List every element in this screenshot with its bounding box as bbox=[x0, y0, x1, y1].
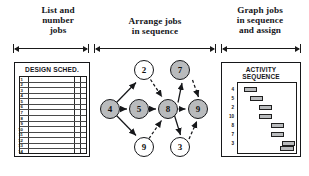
activity-bar[interactable] bbox=[250, 96, 263, 101]
stage-title-graph: Graph jobsin sequenceand assign bbox=[218, 5, 302, 36]
span-arrowhead-left bbox=[222, 46, 227, 52]
span-arrowhead-left bbox=[14, 46, 19, 52]
span-arrow-list bbox=[13, 44, 89, 53]
design-schedule-panel: DESIGN SCHED. 1234567891011121314 bbox=[14, 62, 90, 157]
span-bar bbox=[15, 48, 87, 49]
design-schedule-row: 14 bbox=[20, 149, 86, 155]
network-node-n9b[interactable]: 9 bbox=[134, 137, 154, 157]
activity-row-label: 3 bbox=[223, 141, 234, 146]
design-schedule-grid: 1234567891011121314 bbox=[19, 76, 87, 154]
activity-bar[interactable] bbox=[271, 123, 284, 128]
network-node-n5[interactable]: 5 bbox=[129, 99, 149, 119]
precedence-network: 45892793 bbox=[94, 58, 216, 160]
activity-row-label: 8 bbox=[223, 123, 234, 128]
activity-row-label: 5 bbox=[223, 96, 234, 101]
network-node-label: 3 bbox=[178, 142, 183, 152]
activity-bar[interactable] bbox=[244, 87, 257, 92]
span-arrow-graph bbox=[221, 44, 301, 53]
activity-row-label: 4 bbox=[223, 87, 234, 92]
activity-row-label: 7 bbox=[223, 132, 234, 137]
network-node-n9r[interactable]: 9 bbox=[188, 99, 208, 119]
network-node-label: 5 bbox=[137, 104, 142, 114]
network-node-n4[interactable]: 4 bbox=[100, 99, 120, 119]
activity-sequence-panel: ACTIVITYSEQUENCE 45210873 bbox=[221, 62, 301, 157]
network-node-label: 4 bbox=[108, 104, 113, 114]
network-node-label: 2 bbox=[142, 65, 147, 75]
activity-bar[interactable] bbox=[259, 114, 272, 119]
span-arrowhead-left bbox=[95, 46, 100, 52]
network-node-label: 7 bbox=[178, 65, 183, 75]
network-node-label: 9 bbox=[142, 142, 147, 152]
stage-title-arrange: Arrange jobsin sequence bbox=[101, 16, 209, 36]
design-schedule-row-number: 14 bbox=[16, 149, 23, 155]
activity-sequence-title: ACTIVITYSEQUENCE bbox=[222, 66, 300, 81]
activity-sequence-chart: 45210873 bbox=[237, 82, 297, 154]
span-tick-right bbox=[300, 44, 301, 53]
network-node-label: 8 bbox=[166, 104, 171, 114]
span-bar bbox=[96, 48, 214, 49]
design-schedule-title: DESIGN SCHED. bbox=[15, 66, 89, 73]
network-node-n8[interactable]: 8 bbox=[158, 99, 178, 119]
process-figure: List andnumberjobs Arrange jobsin sequen… bbox=[0, 0, 309, 176]
activity-sequence-end-marker bbox=[280, 146, 294, 152]
span-arrow-arrange bbox=[94, 44, 216, 53]
stage-title-list: List andnumberjobs bbox=[20, 5, 96, 36]
network-node-n3[interactable]: 3 bbox=[170, 137, 190, 157]
network-node-n7[interactable]: 7 bbox=[170, 60, 190, 80]
network-node-label: 9 bbox=[196, 104, 201, 114]
activity-row-label: 10 bbox=[223, 114, 234, 119]
span-tick-right bbox=[88, 44, 89, 53]
span-tick-right bbox=[215, 44, 216, 53]
activity-row-label: 2 bbox=[223, 105, 234, 110]
span-bar bbox=[223, 48, 299, 49]
network-node-n2[interactable]: 2 bbox=[134, 60, 154, 80]
activity-bar[interactable] bbox=[271, 132, 284, 137]
activity-bar[interactable] bbox=[282, 141, 295, 146]
activity-bar[interactable] bbox=[259, 105, 272, 110]
